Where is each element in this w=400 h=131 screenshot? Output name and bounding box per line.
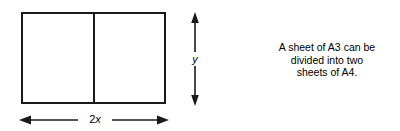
dimension-label-2x: 2x (78, 111, 112, 127)
caption-line-3: sheets of A4. (266, 66, 388, 79)
dimension-label-2x-variable: x (95, 113, 101, 125)
caption-text: A sheet of A3 can be divided into two sh… (266, 41, 388, 79)
caption-line-1: A sheet of A3 can be (266, 41, 388, 54)
dimension-label-y: y (186, 52, 204, 66)
caption-line-2: divided into two (266, 54, 388, 67)
diagram-canvas: y 2x A sheet of A3 can be divided into t… (0, 0, 400, 131)
sheet-divider-line (93, 12, 95, 104)
